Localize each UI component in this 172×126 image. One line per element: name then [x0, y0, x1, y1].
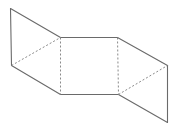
solid-edge-AC [11, 9, 61, 38]
solid-edge-BD [12, 66, 61, 95]
solid-edges [11, 9, 168, 123]
solid-edge-AB [11, 9, 12, 66]
solid-edge-EG [118, 38, 168, 66]
dashed-edge-BC [12, 38, 61, 66]
dashed-edges [12, 38, 168, 95]
solid-edge-FH [119, 95, 168, 123]
dashed-edge-FG [119, 66, 168, 95]
folded-panels-diagram [0, 0, 172, 126]
dashed-edge-EF [118, 38, 119, 95]
